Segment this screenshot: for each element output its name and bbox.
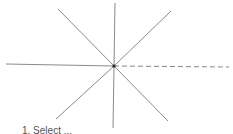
ray-lower-right [114, 66, 168, 121]
caption-text: 1. Select ... [22, 125, 72, 134]
ray-right [114, 66, 229, 67]
ray-left [6, 64, 114, 66]
ray-upper-right [114, 11, 171, 66]
ray-down [113, 66, 114, 128]
ray-up [114, 3, 115, 66]
center-point [112, 64, 115, 67]
ray-upper-left [58, 9, 114, 66]
ray-lower-left [56, 66, 114, 119]
radiating-lines-diagram [0, 0, 233, 134]
